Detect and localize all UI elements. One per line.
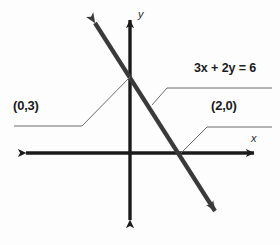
graph-canvas: [0, 0, 280, 245]
y-axis-label: y: [138, 8, 144, 20]
equation-label: 3x + 2y = 6: [194, 61, 256, 75]
x-intercept-label: (2,0): [211, 98, 237, 113]
x-axis-label: x: [251, 132, 257, 144]
y-intercept-label: (0,3): [13, 98, 39, 113]
line-3x-2y-6: [95, 23, 215, 211]
leader-line-x-intercept: [181, 127, 272, 153]
coordinate-plane-figure: (0,3) (2,0) 3x + 2y = 6 x y: [0, 0, 280, 245]
